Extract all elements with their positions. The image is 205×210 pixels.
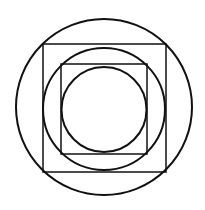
nested-circles-squares-figure (0, 0, 205, 210)
background (0, 0, 205, 210)
